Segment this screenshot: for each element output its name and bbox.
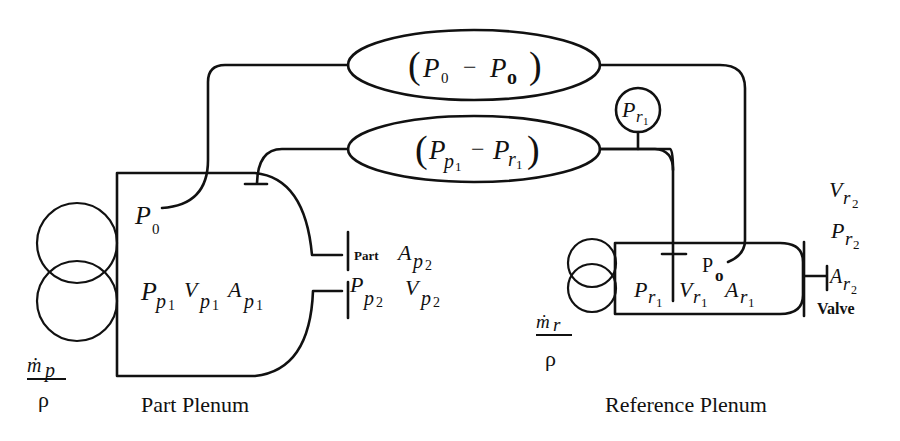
svg-text:1: 1 <box>701 295 708 310</box>
diagram-canvas: ( P 0 − P o ) ( P p 1 − P r 1 ) P r 1 P … <box>0 0 900 441</box>
svg-text:P: P <box>621 97 635 122</box>
part-state-labels: P p 1 V p 1 A p 1 <box>140 277 263 313</box>
svg-text:ṁ: ṁ <box>536 311 550 332</box>
svg-text:p: p <box>419 287 431 310</box>
part-inlet-flow: ṁ p ρ <box>27 354 66 412</box>
svg-text:P: P <box>349 272 363 297</box>
svg-text:ρ: ρ <box>38 387 49 412</box>
svg-text:r: r <box>648 286 656 307</box>
svg-text:0: 0 <box>152 221 160 237</box>
svg-text:V: V <box>184 277 200 302</box>
svg-text:−: − <box>471 136 485 162</box>
line-top-left <box>162 65 348 208</box>
svg-text:p: p <box>411 250 423 273</box>
svg-text:Part: Part <box>354 248 379 263</box>
svg-text:2: 2 <box>852 196 859 211</box>
svg-text:p: p <box>242 290 254 313</box>
differential-bottom-label: ( P p 1 − P r 1 ) <box>415 128 540 174</box>
reference-state-labels: P r 1 V r 1 A r 1 <box>633 277 755 310</box>
part-flow-circle-bottom <box>37 261 117 341</box>
svg-text:0: 0 <box>441 70 449 86</box>
svg-text:P: P <box>489 53 507 83</box>
reference-outlet-labels: V r 2 P r 2 A r 2 Valve <box>817 177 860 317</box>
reference-tap-label: P o <box>702 254 724 285</box>
svg-text:A: A <box>828 265 843 287</box>
svg-text:(: ( <box>415 128 428 171</box>
svg-text:1: 1 <box>643 115 649 127</box>
svg-text:P: P <box>140 277 157 306</box>
svg-text:P: P <box>422 53 440 83</box>
svg-text:1: 1 <box>455 159 462 174</box>
reference-plenum-title: Reference Plenum <box>605 392 767 417</box>
svg-text:o: o <box>715 266 724 285</box>
differential-top-label: ( P 0 − P o ) <box>408 44 542 88</box>
svg-text:(: ( <box>408 44 421 87</box>
svg-text:r: r <box>845 228 853 249</box>
svg-text:2: 2 <box>851 283 857 297</box>
svg-text:2: 2 <box>425 258 432 273</box>
svg-text:V: V <box>405 275 421 300</box>
svg-text:2: 2 <box>376 295 383 310</box>
svg-text:P: P <box>633 277 647 302</box>
svg-text:1: 1 <box>516 157 523 172</box>
svg-text:1: 1 <box>256 298 263 313</box>
svg-text:r: r <box>693 286 701 307</box>
svg-text:p: p <box>154 290 166 313</box>
svg-text:o: o <box>507 66 517 88</box>
svg-text:A: A <box>723 277 739 302</box>
reference-inlet-flow: ṁ r ρ <box>536 311 572 371</box>
svg-text:): ) <box>527 128 540 171</box>
svg-text:1: 1 <box>168 298 175 313</box>
svg-text:A: A <box>396 240 412 265</box>
svg-text:−: − <box>463 54 477 80</box>
svg-text:2: 2 <box>853 237 860 252</box>
line-bottom-right-curve <box>600 149 673 170</box>
svg-text:r: r <box>740 286 748 307</box>
svg-text:ṁ: ṁ <box>27 354 41 376</box>
part-outlet-labels: Part A p 2 P p 2 V p 2 <box>349 240 440 310</box>
svg-text:1: 1 <box>748 295 755 310</box>
svg-text:2: 2 <box>433 295 440 310</box>
svg-text:P: P <box>428 135 446 165</box>
svg-text:r: r <box>508 148 516 170</box>
svg-text:p: p <box>198 290 210 313</box>
svg-text:r: r <box>636 107 643 126</box>
svg-text:p: p <box>362 287 374 310</box>
part-tap-label: P 0 <box>134 201 160 237</box>
svg-text:ρ: ρ <box>545 346 556 371</box>
svg-text:): ) <box>529 44 542 87</box>
part-plenum-title: Part Plenum <box>141 392 249 417</box>
svg-text:P: P <box>134 201 151 230</box>
svg-text:1: 1 <box>212 298 219 313</box>
svg-text:r: r <box>843 187 851 208</box>
svg-text:r: r <box>553 314 561 335</box>
svg-text:p: p <box>442 150 454 173</box>
svg-text:1: 1 <box>656 295 663 310</box>
svg-text:P: P <box>492 135 510 165</box>
svg-text:P: P <box>702 254 713 276</box>
valve-label: Valve <box>817 300 855 317</box>
svg-text:r: r <box>843 274 851 294</box>
gauge-label: P r 1 <box>621 97 649 127</box>
svg-text:A: A <box>226 277 242 302</box>
part-plenum <box>37 173 348 376</box>
svg-text:P: P <box>830 218 844 243</box>
